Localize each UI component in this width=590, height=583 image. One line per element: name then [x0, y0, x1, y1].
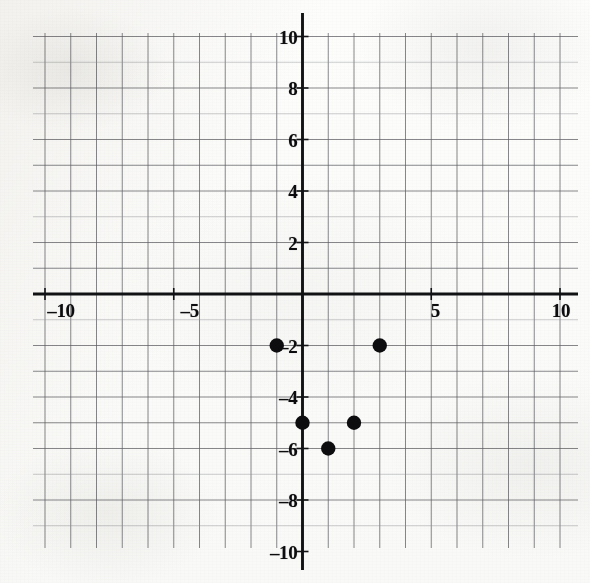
- y-tick-label--2: –2: [279, 336, 297, 355]
- graph-figure: –10–5510108642–2–4–6–8–10: [0, 0, 590, 583]
- x-tick-label-5: 5: [431, 301, 440, 320]
- y-tick-label--6: –6: [279, 439, 297, 458]
- x-tick-label-10: 10: [552, 301, 570, 320]
- y-tick-label-6: 6: [288, 130, 297, 149]
- y-tick-label-10: 10: [279, 27, 297, 46]
- data-point[interactable]: [321, 441, 335, 455]
- x-tick-label--5: –5: [181, 301, 199, 320]
- data-point[interactable]: [373, 338, 387, 352]
- y-tick-label--4: –4: [279, 388, 297, 407]
- y-tick-label--8: –8: [279, 491, 297, 510]
- y-tick-label-4: 4: [288, 182, 297, 201]
- y-tick-label-2: 2: [288, 233, 297, 252]
- y-tick-label-8: 8: [288, 79, 297, 98]
- y-tick-label--10: –10: [270, 542, 298, 561]
- data-point[interactable]: [295, 416, 309, 430]
- data-point[interactable]: [347, 416, 361, 430]
- x-tick-label--10: –10: [47, 301, 75, 320]
